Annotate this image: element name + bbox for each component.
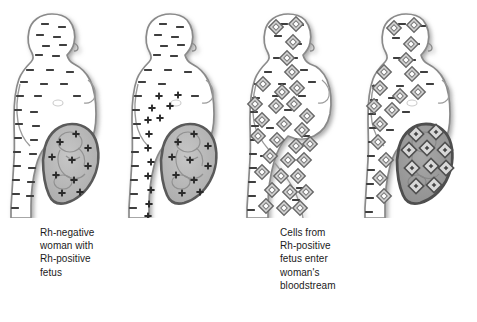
panel-rh-negative-woman: Rh-negative woman with Rh-positive fetus [0,0,119,322]
illustration-sensitized-woman [236,0,355,218]
panel-woman-becomes-sensitized: Woman becomes sensitized— antibodies () … [236,0,355,322]
illustration-pregnant-woman-rh-negative [0,0,119,218]
panel-antibodies-attack-fetal-cells: In the next Rh-positive pregnancy, mater… [354,0,473,322]
illustration-antibodies-attacking-fetus [354,0,473,218]
uterus-with-fetus [43,124,98,204]
uterus-with-fetus [397,124,454,204]
panel-1-caption: Rh-negative woman with Rh-positive fetus [40,226,130,279]
illustration-fetal-cells-entering [118,0,237,218]
uterus-with-fetus [161,124,216,204]
rh-incompatibility-diagram: Rh-negative woman with Rh-positive fetus [0,0,477,322]
panel-fetal-cells-enter-bloodstream: Cells from Rh-positive fetus enter woman… [118,0,237,322]
